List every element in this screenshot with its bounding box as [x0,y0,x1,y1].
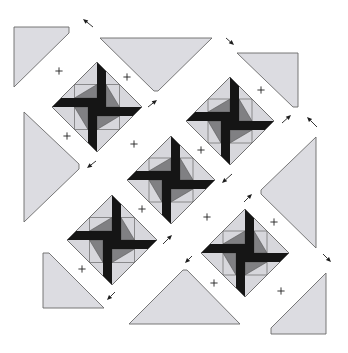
pinwheel-blade-left [127,171,171,180]
pinwheel-blade-right [171,180,215,189]
plus-mark-icon [270,218,277,225]
arrow-shaft [111,292,115,296]
pinwheel-blade-left [52,98,97,107]
plus-mark-icon [210,279,217,286]
arrow-shaft [148,103,153,107]
quilt-assembly-diagram [0,0,348,353]
arrow-up-left-icon [83,19,93,27]
plus-mark-icon [78,265,85,272]
plus-mark-icon [203,213,210,220]
pinwheel-blade-top [97,62,106,107]
arrow-down-left-icon [222,174,232,183]
setting-triangle-left-side [24,112,79,222]
plus-mark-icon [138,205,145,212]
arrow-shaft [323,254,327,258]
pinwheel-blade-bottom [162,180,171,224]
pinwheel-blade-left [67,231,112,240]
pinwheel-blade-right [230,121,274,130]
pinwheel-blade-bottom [236,253,245,297]
plus-mark-icon [123,73,130,80]
arrow-shaft [282,118,287,123]
pinwheel-blade-top [230,77,239,121]
pinwheel-blade-left [186,112,230,121]
arrow-shaft [163,239,168,244]
pinwheel-blade-top [171,136,180,180]
arrow-shaft [189,256,192,259]
arrow-up-right-icon [244,194,252,202]
pinwheel-blade-bottom [103,240,112,285]
pinwheel-block-top-left [52,62,142,152]
pinwheel-blade-right [97,107,142,116]
arrow-down-right-icon [323,254,331,262]
pinwheel-block-bottom-left [67,195,157,285]
arrow-up-right-icon [148,100,157,107]
pinwheel-blade-bottom [221,121,230,165]
arrow-down-left-icon [107,292,115,300]
plus-mark-icon [130,140,137,147]
arrow-shaft [311,121,317,127]
arrow-head [152,100,157,105]
pinwheel-blade-left [201,244,245,253]
arrow-shaft [87,22,93,27]
arrow-down-right-icon [226,38,234,45]
plus-mark-icon [277,287,284,294]
arrow-shaft [226,38,230,42]
plus-mark-icon [197,146,204,153]
plus-mark-icon [55,67,62,74]
arrow-shaft [91,161,96,165]
arrow-shaft [226,174,232,180]
arrow-up-right-icon [163,235,172,244]
pinwheel-blade-right [245,253,289,262]
plus-mark-icon [63,132,70,139]
pinwheel-block-center [127,136,215,224]
arrow-down-left-icon [185,256,192,263]
arrow-up-left-icon [307,117,317,127]
setting-triangle-right-side [261,137,316,248]
pinwheel-blade-right [112,240,157,249]
setting-triangle-top-left-corner [14,27,69,87]
arrow-down-left-icon [87,161,96,168]
pinwheel-blade-top [112,195,121,240]
arrow-shaft [244,198,248,202]
pinwheel-blade-top [245,209,254,253]
arrow-up-right-icon [282,115,291,123]
setting-triangle-bottom-right-corner [271,273,326,334]
arrow-head [87,163,92,168]
pinwheel-blade-bottom [88,107,97,152]
pinwheel-blocks-layer [52,62,289,297]
setting-triangle-bottom-side [129,270,240,324]
diagram-canvas [0,0,348,353]
plus-mark-icon [257,86,264,93]
